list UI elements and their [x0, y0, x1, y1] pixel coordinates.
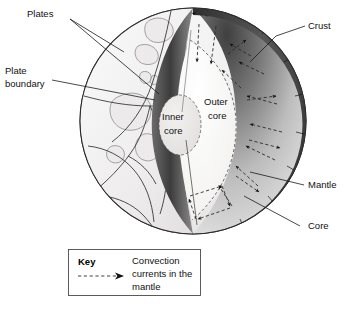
key-entry-line2: currents in the — [132, 268, 192, 279]
label-plate-boundary-line1: Plate — [5, 65, 27, 76]
leader-crust-seg — [276, 26, 305, 36]
label-inner-core-line1: Inner — [162, 111, 184, 122]
label-plates: Plates — [27, 8, 54, 19]
key-entry-line3: mantle — [132, 281, 161, 292]
label-inner-core-line2: core — [164, 125, 182, 136]
key-entry-line1: Convection — [132, 255, 180, 266]
key-title: Key — [78, 256, 96, 267]
label-crust: Crust — [308, 20, 331, 31]
label-outer-core-line2: core — [208, 110, 226, 121]
label-core: Core — [308, 220, 329, 231]
leader-plates-a — [70, 19, 124, 52]
label-mantle: Mantle — [308, 179, 337, 190]
diagram-canvas: Plates Plate boundary Crust Mantle Core … — [0, 0, 349, 313]
key-legend: Key Convection currents in the mantle — [69, 250, 201, 296]
label-outer-core-line1: Outer — [204, 96, 228, 107]
label-plate-boundary-line2: boundary — [5, 78, 45, 89]
globe-group — [70, 0, 306, 250]
earth-cutaway-diagram: Plates Plate boundary Crust Mantle Core … — [0, 0, 349, 313]
